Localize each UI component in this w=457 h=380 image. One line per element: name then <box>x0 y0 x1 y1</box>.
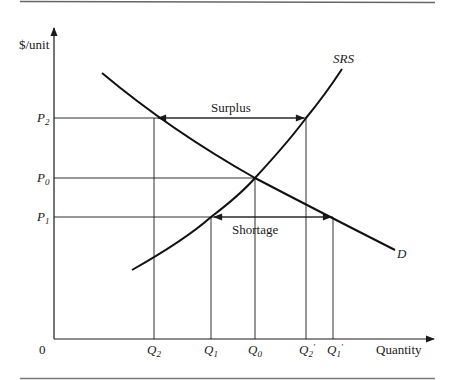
price-label-p1: P1 <box>36 209 49 226</box>
quantity-label-q0: Q0 <box>248 342 262 359</box>
quantity-label-q2: Q2 <box>147 342 161 359</box>
price-label-p0: P0 <box>36 170 50 187</box>
price-label-p2: P2 <box>36 110 50 127</box>
quantity-label-q1: Q1 <box>204 342 218 359</box>
x-axis-label: Quantity <box>376 342 422 357</box>
y-axis-label: $/unit <box>19 37 50 52</box>
demand-label: D <box>396 246 407 261</box>
supply-demand-diagram: $/unit Quantity 0 SRS D Surplus Shortage… <box>0 0 457 380</box>
quantity-label-q1-prime: Q1′ <box>327 342 344 359</box>
shortage-label: Shortage <box>232 222 278 237</box>
quantity-label-q2-prime: Q2′ <box>299 342 316 359</box>
surplus-label: Surplus <box>211 100 251 115</box>
origin-label: 0 <box>39 342 46 357</box>
supply-label: SRS <box>333 51 354 66</box>
top-rule <box>20 2 435 3</box>
